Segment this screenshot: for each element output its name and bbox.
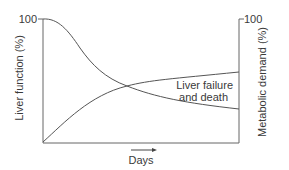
right-tick-label: 100 [244, 13, 262, 25]
arrow-head-icon [152, 148, 157, 152]
left-tick-label: 100 [19, 13, 37, 25]
annotation-line-1: Liver failure [176, 79, 233, 91]
annotation-line-2: and death [179, 91, 228, 103]
left-axis-label: Liver function (%) [13, 35, 25, 121]
chart: 100 100 Liver function (%) Metabolic dem… [0, 0, 289, 170]
right-axis-label: Metabolic demand (%) [256, 27, 268, 137]
x-axis-label: Days [128, 154, 154, 166]
